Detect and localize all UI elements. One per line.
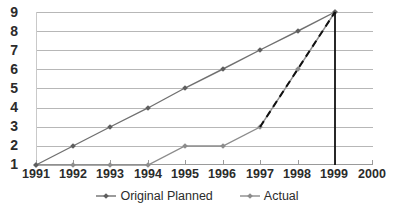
y-axis-tick-label: 3	[0, 119, 18, 133]
y-axis-tick-label: 4	[0, 100, 18, 114]
legend-label-original-planned: Original Planned	[120, 190, 212, 203]
y-axis-tick-label: 6	[0, 62, 18, 76]
chart-legend: Original Planned Actual	[0, 190, 394, 203]
y-axis-tick-label: 7	[0, 43, 18, 57]
x-axis-tick-label: 1993	[90, 168, 130, 181]
plot-area	[36, 12, 373, 165]
legend-marker-actual-icon	[239, 191, 261, 201]
x-axis-tick-label: 1995	[165, 168, 205, 181]
legend-entry-original-planned[interactable]: Original Planned	[95, 190, 212, 203]
x-axis-tick-label: 2000	[352, 168, 392, 181]
x-axis-tick-label: 1994	[128, 168, 168, 181]
legend-label-actual: Actual	[264, 190, 299, 203]
y-axis-tick-label: 2	[0, 138, 18, 152]
series-layer	[36, 12, 373, 165]
x-axis-tick-label: 1991	[16, 168, 56, 181]
y-axis-tick-label: 5	[0, 81, 18, 95]
x-axis-tick-label: 1997	[240, 168, 280, 181]
x-axis-tick-label: 1999	[314, 168, 354, 181]
y-axis-tick-label: 8	[0, 24, 18, 38]
legend-entry-actual[interactable]: Actual	[239, 190, 299, 203]
y-axis-tick-label: 9	[0, 5, 18, 19]
legend-marker-original-planned-icon	[95, 191, 117, 201]
x-axis-tick-label: 1996	[202, 168, 242, 181]
x-axis-tick-label: 1998	[277, 168, 317, 181]
line-chart: 9 8 7 6 5 4 3 2 1 1991 1992 1993 1994 19…	[0, 0, 394, 223]
x-axis-tick-label: 1992	[53, 168, 93, 181]
